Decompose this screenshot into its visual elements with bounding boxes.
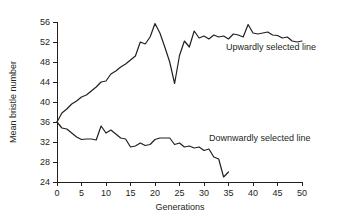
y-tick-label: 36 [40, 117, 50, 127]
y-tick-label: 48 [40, 57, 50, 67]
x-tick-marks [57, 182, 302, 186]
x-tick-label: 15 [125, 188, 135, 198]
line-chart: 242832364044485256 05101520253035404550 … [0, 0, 359, 216]
x-tick-label: 35 [223, 188, 233, 198]
y-tick-label: 24 [40, 177, 50, 187]
y-tick-label: 44 [40, 77, 50, 87]
x-tick-label: 30 [199, 188, 209, 198]
x-tick-label: 20 [150, 188, 160, 198]
y-tick-marks [53, 22, 57, 182]
y-tick-labels: 242832364044485256 [40, 17, 50, 187]
x-tick-label: 5 [79, 188, 84, 198]
upwardly-selected-line [57, 24, 302, 123]
y-tick-label: 52 [40, 37, 50, 47]
x-tick-labels: 05101520253035404550 [54, 188, 307, 198]
x-tick-label: 25 [174, 188, 184, 198]
chart-figure: 242832364044485256 05101520253035404550 … [0, 0, 359, 216]
downwardly-selected-line-label: Downwardly selected line [209, 133, 311, 143]
y-tick-label: 40 [40, 97, 50, 107]
x-axis-title: Generations [155, 202, 205, 212]
y-tick-label: 56 [40, 17, 50, 27]
x-tick-label: 0 [54, 188, 59, 198]
y-tick-label: 28 [40, 157, 50, 167]
y-axis-title: Mean bristle number [8, 61, 18, 143]
y-tick-label: 32 [40, 137, 50, 147]
x-tick-label: 50 [297, 188, 307, 198]
downwardly-selected-line [57, 122, 229, 177]
x-tick-label: 45 [272, 188, 282, 198]
x-tick-label: 10 [101, 188, 111, 198]
upwardly-selected-line-label: Upwardly selected line [226, 42, 316, 52]
x-tick-label: 40 [248, 188, 258, 198]
